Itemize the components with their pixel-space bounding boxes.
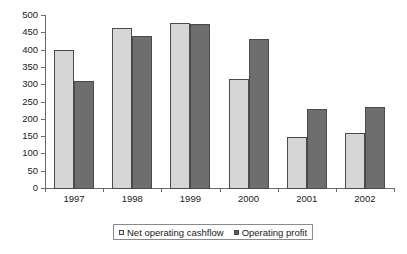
x-axis-label-1999: 1999	[160, 193, 220, 204]
y-axis-tick-label: 50	[27, 166, 38, 176]
x-axis-tick	[161, 188, 162, 192]
y-axis-tick	[41, 32, 45, 33]
legend-entry-net-operating-cashflow: Net operating cashflow	[119, 227, 224, 238]
bar-1998-operating-profit	[132, 36, 152, 189]
y-axis-tick	[41, 50, 45, 51]
y-axis-tick-label: 200	[22, 114, 38, 124]
bar-2001-operating-profit	[307, 109, 327, 189]
bar-2002-net-operating-cashflow	[345, 133, 365, 189]
y-axis-tick	[41, 171, 45, 172]
plot-area: 050100150200250300350400450500 199719981…	[0, 0, 407, 212]
x-axis-label-2002: 2002	[335, 193, 395, 204]
y-axis-tick-label: 350	[22, 62, 38, 72]
bar-2001-net-operating-cashflow	[287, 137, 307, 189]
bar-1997-operating-profit	[74, 81, 94, 189]
y-axis-tick-label: 100	[22, 148, 38, 158]
y-axis-tick-label: 150	[22, 131, 38, 141]
y-axis-tick	[41, 119, 45, 120]
x-axis-label-2001: 2001	[277, 193, 337, 204]
x-axis-label-1997: 1997	[44, 193, 104, 204]
y-axis-tick	[41, 153, 45, 154]
bar-2000-operating-profit	[249, 39, 269, 189]
y-axis-tick	[41, 136, 45, 137]
legend-swatch-light-icon	[119, 230, 124, 235]
legend-label-operating-profit: Operating profit	[242, 227, 307, 238]
legend-entry-operating-profit: Operating profit	[234, 227, 307, 238]
bar-chart: 050100150200250300350400450500 199719981…	[0, 0, 407, 254]
y-axis-line	[45, 15, 46, 189]
x-axis-tick	[394, 188, 395, 192]
y-axis-tick-label: 500	[22, 10, 38, 20]
legend-label-net-operating-cashflow: Net operating cashflow	[127, 227, 224, 238]
bar-1999-operating-profit	[190, 24, 210, 189]
x-axis-tick	[220, 188, 221, 192]
x-axis-label-2000: 2000	[219, 193, 279, 204]
y-axis-tick-label: 250	[22, 97, 38, 107]
chart-legend: Net operating cashflow Operating profit	[113, 224, 313, 240]
bar-2000-net-operating-cashflow	[229, 79, 249, 189]
bar-1997-net-operating-cashflow	[54, 50, 74, 189]
y-axis-tick	[41, 15, 45, 16]
x-axis-tick	[45, 188, 46, 192]
x-axis-label-1998: 1998	[102, 193, 162, 204]
y-axis-tick-label: 0	[33, 183, 38, 193]
x-axis-tick	[103, 188, 104, 192]
legend-swatch-dark-icon	[234, 230, 239, 235]
y-axis-tick-label: 400	[22, 45, 38, 55]
x-axis-tick	[278, 188, 279, 192]
bar-1999-net-operating-cashflow	[170, 23, 190, 189]
x-axis-tick	[336, 188, 337, 192]
y-axis-tick-label: 450	[22, 27, 38, 37]
y-axis-tick	[41, 102, 45, 103]
y-axis-tick	[41, 84, 45, 85]
bar-2002-operating-profit	[365, 107, 385, 189]
y-axis-tick	[41, 67, 45, 68]
bar-1998-net-operating-cashflow	[112, 28, 132, 189]
y-axis-tick-label: 300	[22, 79, 38, 89]
